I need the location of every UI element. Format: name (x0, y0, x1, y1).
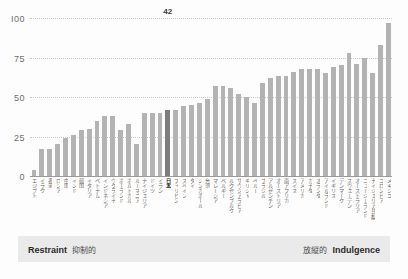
bar-column[interactable] (329, 18, 337, 176)
bar[interactable] (347, 53, 352, 176)
bar-column[interactable] (85, 18, 93, 176)
bar[interactable] (221, 86, 226, 176)
bar[interactable] (362, 58, 367, 177)
bar[interactable] (323, 73, 328, 176)
bar[interactable] (95, 121, 100, 176)
bar[interactable] (55, 144, 60, 176)
bar-column[interactable] (227, 18, 235, 176)
bar[interactable] (150, 113, 155, 176)
bar[interactable] (134, 144, 139, 176)
bar[interactable] (142, 113, 147, 176)
bar[interactable] (47, 149, 52, 176)
bar[interactable] (228, 88, 233, 176)
bar-column[interactable] (93, 18, 101, 176)
bar-column[interactable] (282, 18, 290, 176)
bar-highlighted[interactable]: 42 (165, 110, 170, 176)
bar[interactable] (79, 130, 84, 176)
bar[interactable] (276, 76, 281, 176)
bar[interactable] (370, 73, 375, 176)
bar[interactable] (315, 69, 320, 176)
bar[interactable] (244, 97, 249, 176)
bar-column[interactable] (361, 18, 369, 176)
bar[interactable] (32, 170, 37, 176)
bar-column[interactable] (306, 18, 314, 176)
bar[interactable] (386, 23, 391, 176)
x-axis-label-text: シンガポール (197, 178, 202, 208)
bar-column[interactable] (211, 18, 219, 176)
bar-column[interactable] (180, 18, 188, 176)
bar-column[interactable] (148, 18, 156, 176)
x-axis-label: スイス (290, 178, 298, 222)
bar[interactable] (284, 76, 289, 176)
bar-column[interactable] (117, 18, 125, 176)
x-axis-label: ドイツ (148, 178, 156, 222)
bar[interactable] (307, 69, 312, 176)
bar-column[interactable] (156, 18, 164, 176)
bar[interactable] (252, 103, 257, 176)
bar-column[interactable] (290, 18, 298, 176)
bar-column[interactable] (337, 18, 345, 176)
bar[interactable] (87, 129, 92, 176)
bar-column[interactable] (353, 18, 361, 176)
bar-column[interactable] (266, 18, 274, 176)
bar[interactable] (268, 78, 273, 176)
bar[interactable] (102, 116, 107, 176)
bar-column[interactable] (243, 18, 251, 176)
bar[interactable] (205, 99, 210, 176)
bar[interactable] (173, 110, 178, 176)
bar[interactable] (71, 135, 76, 176)
bar-column[interactable] (235, 18, 243, 176)
bar-column[interactable] (377, 18, 385, 176)
bar[interactable] (378, 45, 383, 176)
bar[interactable] (181, 106, 186, 176)
bar[interactable] (299, 69, 304, 176)
bar-column[interactable] (203, 18, 211, 176)
bar-column[interactable] (77, 18, 85, 176)
x-axis-label-text: オーストラリア (354, 178, 359, 213)
bar-column[interactable] (188, 18, 196, 176)
bar-column[interactable] (298, 18, 306, 176)
bar-column[interactable] (369, 18, 377, 176)
bar-column[interactable] (258, 18, 266, 176)
bar-column[interactable] (125, 18, 133, 176)
bar-column[interactable] (132, 18, 140, 176)
bar[interactable] (39, 149, 44, 176)
x-axis-label: ナイジェリア (140, 178, 148, 222)
x-axis-label: サウジアラビア (235, 178, 243, 222)
bar[interactable] (197, 103, 202, 176)
bar-column[interactable] (251, 18, 259, 176)
bar[interactable] (110, 116, 115, 176)
bar[interactable] (236, 94, 241, 176)
bar-column[interactable] (172, 18, 180, 176)
bar[interactable] (63, 138, 68, 176)
bar-column[interactable] (62, 18, 70, 176)
y-axis-tick-label: I00 (11, 14, 25, 24)
bar-column[interactable] (38, 18, 46, 176)
bar-column[interactable] (101, 18, 109, 176)
bar[interactable] (213, 86, 218, 176)
bar-column[interactable] (345, 18, 353, 176)
bar[interactable] (260, 83, 265, 176)
bar-column[interactable] (219, 18, 227, 176)
bar[interactable] (118, 130, 123, 176)
bar-column[interactable]: 42 (164, 18, 172, 176)
bar[interactable] (354, 64, 359, 176)
bar-column[interactable] (46, 18, 54, 176)
bar[interactable] (189, 105, 194, 176)
bar-column[interactable] (314, 18, 322, 176)
bar[interactable] (291, 72, 296, 176)
x-axis-label-text: ナイジェリア共和国 (370, 178, 375, 220)
bar[interactable] (126, 124, 131, 176)
bar[interactable] (339, 65, 344, 176)
bar-column[interactable] (384, 18, 392, 176)
bar-column[interactable] (69, 18, 77, 176)
bar-column[interactable] (195, 18, 203, 176)
bar-column[interactable] (109, 18, 117, 176)
bar-column[interactable] (140, 18, 148, 176)
bar-column[interactable] (321, 18, 329, 176)
bar-column[interactable] (274, 18, 282, 176)
bar[interactable] (158, 113, 163, 176)
bar-column[interactable] (30, 18, 38, 176)
bar[interactable] (331, 67, 336, 176)
bar-column[interactable] (54, 18, 62, 176)
